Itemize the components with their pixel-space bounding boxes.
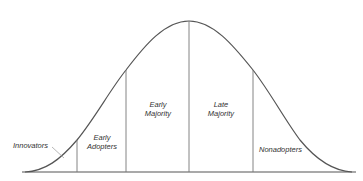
bell-curve <box>25 21 352 172</box>
label-innovators-text: Innovators <box>13 141 48 150</box>
label-late-majority-line2: Majority <box>201 109 241 118</box>
label-late-majority: Late Majority <box>201 100 241 118</box>
innovators-leader-line <box>52 147 64 158</box>
label-nonadopters: Nonadopters <box>259 145 302 154</box>
label-late-majority-line1: Late <box>201 100 241 109</box>
label-early-adopters-line1: Early <box>84 133 120 142</box>
bell-curve-diagram <box>0 0 363 181</box>
label-nonadopters-text: Nonadopters <box>259 145 302 154</box>
label-innovators: Innovators <box>13 141 48 150</box>
label-early-adopters-line2: Adopters <box>84 142 120 151</box>
label-early-majority: Early Majority <box>138 100 178 118</box>
label-early-adopters: Early Adopters <box>84 133 120 151</box>
label-early-majority-line2: Majority <box>138 109 178 118</box>
label-early-majority-line1: Early <box>138 100 178 109</box>
